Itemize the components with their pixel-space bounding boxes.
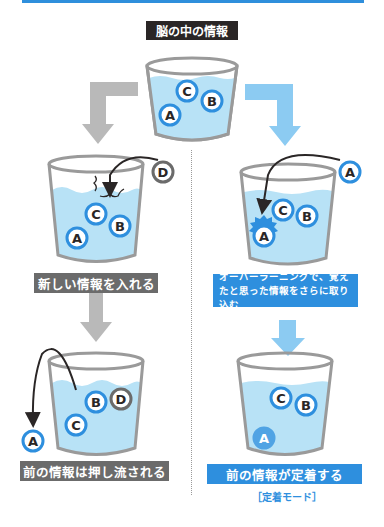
svg-text:C: C [276, 391, 286, 406]
svg-text:C: C [71, 418, 81, 433]
mode-label: ［定着モード］ [252, 489, 322, 504]
svg-text:B: B [115, 219, 125, 234]
blue-down-arrow [271, 320, 305, 356]
info-ball: A [254, 226, 274, 246]
gray-branch-arrow [82, 82, 138, 144]
gray-down-arrow-1 [80, 292, 112, 342]
info-ball: B [296, 395, 316, 415]
svg-text:C: C [278, 203, 288, 218]
svg-text:D: D [116, 392, 127, 407]
right-step1-label: オーバーラーニングで、覚えたと思った情報をさらに取り込む [213, 274, 358, 307]
section-divider [191, 150, 192, 495]
info-ball: B [86, 392, 106, 412]
svg-text:C: C [91, 207, 101, 222]
svg-text:A: A [28, 434, 38, 449]
blue-branch-arrow [245, 84, 301, 146]
svg-text:B: B [301, 398, 311, 413]
left-step1-label: 新しい情報を入れる [34, 273, 158, 293]
info-ball: B [297, 206, 317, 226]
info-ball: C [66, 415, 86, 435]
ejected-info-ball: A [23, 431, 43, 451]
settled-info-ball: A [254, 428, 274, 448]
right-step2-label: 前の情報が定着する [207, 464, 362, 484]
info-ball: D [111, 389, 131, 409]
svg-text:B: B [91, 395, 101, 410]
svg-text:A: A [345, 165, 355, 180]
left-step2-label: 前の情報は押し流される [20, 461, 169, 481]
info-ball: B [202, 91, 222, 111]
svg-text:D: D [158, 165, 169, 180]
info-ball: C [273, 200, 293, 220]
info-ball: C [177, 81, 197, 101]
svg-text:A: A [72, 231, 82, 246]
incoming-info-ball: D [153, 162, 173, 182]
svg-text:A: A [259, 229, 269, 244]
svg-text:B: B [207, 94, 217, 109]
incoming-info-ball: A [340, 162, 360, 182]
diagram-canvas: CBAACBDBDCACBAACBA [0, 0, 384, 527]
info-ball: C [271, 388, 291, 408]
info-ball: B [110, 216, 130, 236]
info-ball: A [160, 105, 180, 125]
svg-text:C: C [182, 84, 192, 99]
info-ball: C [86, 204, 106, 224]
svg-text:B: B [302, 209, 312, 224]
info-ball: A [67, 228, 87, 248]
svg-text:A: A [259, 431, 269, 446]
title-label: 脳の中の情報 [146, 21, 238, 40]
svg-text:A: A [165, 108, 175, 123]
